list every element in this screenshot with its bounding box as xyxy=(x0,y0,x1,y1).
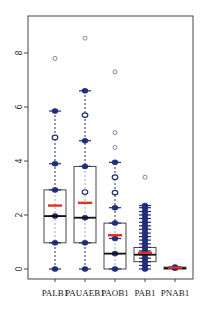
data-point-hollow xyxy=(82,190,88,195)
outlier-point xyxy=(113,131,117,135)
outlier-point xyxy=(113,70,117,74)
data-point xyxy=(52,187,58,192)
data-point xyxy=(82,240,88,245)
box-group-palb1 xyxy=(44,56,66,271)
box-group-paob1 xyxy=(104,70,126,272)
data-point xyxy=(112,236,118,241)
outlier-point xyxy=(83,36,87,40)
box-group-pab1 xyxy=(134,175,156,271)
box xyxy=(104,223,126,269)
data-point xyxy=(112,160,118,165)
y-tick-label: 0 xyxy=(15,266,24,271)
box-group-pauaeb1 xyxy=(74,36,96,271)
data-point xyxy=(112,267,118,272)
data-point xyxy=(52,109,58,114)
y-tick-label: 8 xyxy=(15,50,24,55)
box-plot-chart: 02468 PALB1PAUAEB1PAOB1PAB1PNAB1 xyxy=(0,0,206,310)
y-axis: 02468 xyxy=(15,50,29,271)
data-point xyxy=(52,161,58,166)
data-point xyxy=(82,267,88,272)
data-point-hollow xyxy=(112,190,118,195)
x-tick-label: PAUAEB1 xyxy=(65,288,105,298)
data-point xyxy=(52,240,58,245)
y-tick-label: 4 xyxy=(15,158,24,163)
data-point-hollow xyxy=(82,113,88,118)
box-group-pnab1 xyxy=(164,265,186,271)
outlier-point xyxy=(143,175,147,179)
x-tick-label: PNAB1 xyxy=(161,288,190,298)
outlier-point xyxy=(53,56,57,60)
x-axis: PALB1PAUAEB1PAOB1PAB1PNAB1 xyxy=(42,279,190,298)
data-point xyxy=(82,138,88,143)
data-point xyxy=(112,221,118,226)
y-tick-label: 6 xyxy=(15,104,24,109)
data-point xyxy=(52,267,58,272)
data-point xyxy=(142,203,148,208)
box xyxy=(74,166,96,242)
y-tick-label: 2 xyxy=(15,212,24,217)
x-tick-label: PAOB1 xyxy=(101,288,129,298)
data-point-hollow xyxy=(52,135,58,140)
data-point-hollow xyxy=(112,175,118,180)
outlier-point xyxy=(113,146,117,150)
x-tick-label: PAB1 xyxy=(134,288,155,298)
data-point xyxy=(82,164,88,169)
plot-marks xyxy=(44,36,186,271)
data-point xyxy=(112,205,118,210)
data-point xyxy=(82,88,88,93)
